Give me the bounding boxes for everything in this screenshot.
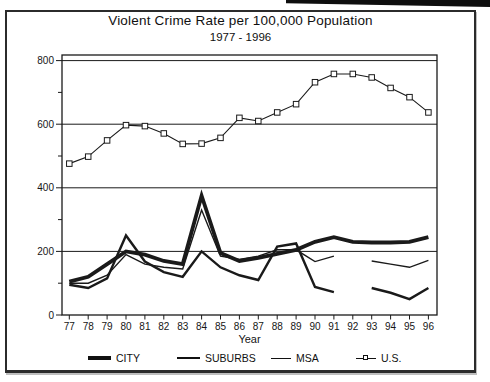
us-data-marker	[274, 110, 280, 116]
x-tick-label: 84	[196, 321, 208, 332]
suburbs-line-swatch-icon	[177, 357, 200, 359]
us-data-marker	[407, 94, 413, 100]
y-tick-label: 600	[37, 119, 54, 130]
us-data-marker	[293, 101, 299, 107]
msa-line-swatch-icon	[271, 358, 291, 359]
x-axis-title: Year	[238, 333, 261, 345]
x-tick-label: 89	[291, 321, 303, 332]
x-tick-label: 85	[215, 321, 227, 332]
legend-label-city: CITY	[116, 352, 140, 364]
us-data-marker	[161, 131, 167, 137]
x-tick-label: 77	[64, 321, 76, 332]
us-data-marker	[350, 71, 356, 77]
x-tick-label: 86	[234, 321, 246, 332]
x-tick-label: 81	[139, 321, 151, 332]
x-tick-label: 93	[366, 321, 378, 332]
x-tick-label: 83	[177, 321, 189, 332]
us-data-marker	[388, 85, 394, 91]
us-square-marker-icon	[363, 355, 368, 360]
us-data-marker	[426, 110, 432, 116]
x-tick-label: 79	[102, 321, 114, 332]
y-tick-label: 200	[37, 246, 54, 257]
legend-item-msa: MSA	[271, 350, 319, 366]
x-tick-label: 87	[253, 321, 265, 332]
series-city-line	[69, 196, 428, 282]
us-data-marker	[85, 154, 91, 160]
series-us-line	[69, 74, 428, 164]
us-data-marker	[256, 118, 261, 124]
x-tick-label: 90	[309, 321, 321, 332]
us-data-marker	[312, 79, 318, 85]
legend-label-us: U.S.	[381, 352, 401, 364]
x-tick-label: 96	[423, 321, 435, 332]
us-data-marker	[104, 138, 110, 144]
us-data-marker	[123, 122, 129, 128]
series-msa-line	[372, 260, 429, 267]
us-line-swatch-icon	[356, 358, 376, 359]
x-tick-label: 82	[158, 321, 170, 332]
crime-chart-svg: 0200400600800777879808182838485868788899…	[0, 0, 490, 382]
x-tick-label: 95	[404, 321, 416, 332]
x-tick-label: 94	[385, 321, 397, 332]
x-tick-label: 88	[272, 321, 284, 332]
series-suburbs-line	[372, 288, 429, 299]
legend-label-suburbs: SUBURBS	[205, 352, 256, 364]
us-data-marker	[67, 161, 73, 167]
us-data-marker	[237, 115, 243, 121]
figure-root: { "header": { "title": "Violent Crime Ra…	[0, 0, 490, 382]
y-tick-label: 400	[37, 182, 54, 193]
x-tick-label: 80	[120, 321, 132, 332]
us-data-marker	[331, 71, 337, 77]
legend-item-city: CITY	[88, 350, 140, 366]
us-data-marker	[142, 123, 148, 129]
us-data-marker	[218, 135, 224, 141]
x-tick-label: 91	[328, 321, 340, 332]
city-line-swatch-icon	[88, 356, 111, 360]
us-data-marker	[180, 141, 186, 147]
x-tick-label: 92	[347, 321, 359, 332]
us-data-marker	[199, 141, 205, 147]
plot-border	[62, 55, 437, 315]
us-data-marker	[369, 75, 375, 81]
legend-label-msa: MSA	[296, 352, 319, 364]
legend-item-suburbs: SUBURBS	[177, 350, 256, 366]
y-tick-label: 800	[37, 55, 54, 66]
x-tick-label: 78	[83, 321, 95, 332]
legend-item-us: U.S.	[356, 350, 401, 366]
y-tick-label: 0	[48, 310, 54, 321]
